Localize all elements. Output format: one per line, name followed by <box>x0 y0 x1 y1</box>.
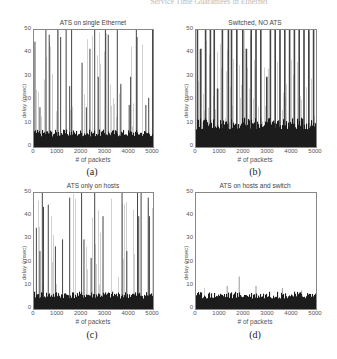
y-tick-label: 50 <box>17 25 31 31</box>
y-tick-label: 10 <box>179 119 193 125</box>
figure-caption: (c) <box>72 329 112 340</box>
plot-area <box>33 192 154 310</box>
y-tick-label: 30 <box>179 72 193 78</box>
y-tick-label: 40 <box>179 48 193 54</box>
x-tick-label: 1000 <box>207 148 231 154</box>
x-axis-label: # of packets <box>33 318 153 325</box>
y-tick-label: 50 <box>179 188 193 194</box>
y-tick-label: 50 <box>17 188 31 194</box>
x-tick-label: 3000 <box>92 148 116 154</box>
x-tick-label: 5000 <box>303 310 327 316</box>
y-tick-label: 40 <box>179 211 193 217</box>
x-tick-label: 2000 <box>69 310 93 316</box>
x-tick-label: 4000 <box>116 148 140 154</box>
y-tick-label: 20 <box>179 258 193 264</box>
page-header-fragment: Service Time Guarantees in Ethernet <box>150 0 337 6</box>
x-axis-label: # of packets <box>33 156 153 163</box>
x-tick-label: 1000 <box>207 310 231 316</box>
x-tick-label: 0 <box>21 310 45 316</box>
chart-title: ATS on single Ethernet <box>33 19 153 26</box>
plot-area <box>195 192 317 310</box>
y-tick-label: 30 <box>179 234 193 240</box>
figure-caption: (d) <box>235 329 275 340</box>
y-tick-label: 20 <box>179 95 193 101</box>
figure-caption: (b) <box>235 166 275 177</box>
x-tick-label: 0 <box>21 148 45 154</box>
y-tick-label: 10 <box>17 281 31 287</box>
x-tick-label: 0 <box>183 310 207 316</box>
chart-title: ATS on hosts and switch <box>195 182 315 189</box>
y-tick-label: 30 <box>17 234 31 240</box>
x-tick-label: 2000 <box>231 310 255 316</box>
x-tick-label: 5000 <box>140 310 164 316</box>
y-tick-label: 10 <box>17 119 31 125</box>
chart-title: ATS only on hosts <box>33 182 153 189</box>
chart-title: Switched, NO ATS <box>195 19 315 26</box>
x-tick-label: 3000 <box>255 310 279 316</box>
y-tick-label: 10 <box>179 281 193 287</box>
x-tick-label: 1000 <box>45 310 69 316</box>
y-tick-label: 20 <box>17 95 31 101</box>
plot-area <box>195 29 317 148</box>
figure-caption: (a) <box>72 166 112 177</box>
x-tick-label: 2000 <box>69 148 93 154</box>
y-tick-label: 40 <box>17 48 31 54</box>
y-tick-label: 20 <box>17 258 31 264</box>
plot-area <box>33 29 154 148</box>
x-tick-label: 1000 <box>45 148 69 154</box>
y-tick-label: 40 <box>17 211 31 217</box>
x-tick-label: 3000 <box>92 310 116 316</box>
y-tick-label: 50 <box>179 25 193 31</box>
x-tick-label: 4000 <box>116 310 140 316</box>
x-tick-label: 4000 <box>279 310 303 316</box>
x-tick-label: 5000 <box>140 148 164 154</box>
x-axis-label: # of packets <box>195 156 315 163</box>
x-tick-label: 4000 <box>279 148 303 154</box>
x-tick-label: 3000 <box>255 148 279 154</box>
x-tick-label: 5000 <box>303 148 327 154</box>
x-tick-label: 2000 <box>231 148 255 154</box>
x-axis-label: # of packets <box>195 318 315 325</box>
y-tick-label: 30 <box>17 72 31 78</box>
x-tick-label: 0 <box>183 148 207 154</box>
